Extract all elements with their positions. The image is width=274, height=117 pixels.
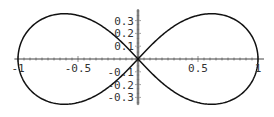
y-tick-label: -0.3 [108,91,135,104]
y-tick-label: 0.3 [114,15,134,28]
y-tick-label: -0.2 [108,79,135,92]
lemniscate-plot: -1-0.50.510.30.20.1-0.1-0.2-0.3 [0,0,274,117]
x-tick-label: -0.5 [65,62,92,75]
x-tick-label: 1 [255,62,262,75]
x-tick-label: 0.5 [188,62,208,75]
y-tick-label: 0.2 [114,27,134,40]
y-tick-label: -0.1 [108,66,135,79]
y-tick-label: 0.1 [114,40,134,53]
x-tick-label: -1 [11,62,24,75]
